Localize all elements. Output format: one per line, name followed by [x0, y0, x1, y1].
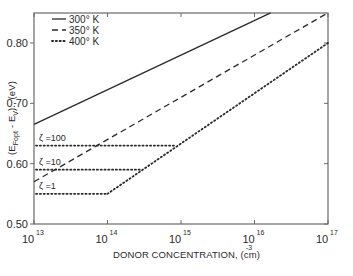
legend-label: 350° K	[69, 25, 99, 36]
svg-text:10: 10	[22, 233, 34, 245]
svg-text:15: 15	[183, 229, 191, 236]
series-line-400k	[108, 43, 329, 194]
chart-container: 0.500.600.700.8010131014101510161017 ζ =…	[0, 0, 353, 276]
x-tick-label: 1016	[242, 229, 264, 245]
y-tick-label: 0.80	[7, 37, 28, 49]
svg-text:-3: -3	[246, 244, 252, 251]
svg-text:10: 10	[169, 233, 181, 245]
svg-text:10: 10	[316, 233, 328, 245]
x-tick-label: 1015	[169, 229, 191, 245]
axes: 0.500.600.700.8010131014101510161017	[7, 13, 338, 245]
y-axis-title: (EFopt - EV) , (eV)	[6, 81, 20, 155]
x-tick-label: 1013	[22, 229, 44, 245]
svg-text:DONOR CONCENTRATION, (cm): DONOR CONCENTRATION, (cm)	[113, 249, 260, 260]
legend: 300° K350° K400° K	[52, 14, 99, 47]
y-tick-label: 0.60	[7, 158, 28, 170]
legend-label: 300° K	[69, 14, 99, 25]
zeta-label: ζ =10	[39, 157, 61, 167]
x-tick-label: 1017	[316, 229, 338, 245]
x-tick-label: 1014	[95, 229, 117, 245]
svg-text:10: 10	[95, 233, 107, 245]
svg-text:17: 17	[330, 229, 338, 236]
svg-text:13: 13	[36, 229, 44, 236]
svg-text:(EFopt - EV) , (eV): (EFopt - EV) , (eV)	[6, 81, 20, 155]
line-chart: 0.500.600.700.8010131014101510161017 ζ =…	[0, 0, 353, 276]
zeta-annotations: ζ =100ζ =10ζ =1	[36, 133, 175, 194]
x-axis-title: DONOR CONCENTRATION, (cm)-3	[113, 244, 260, 260]
legend-label: 400° K	[69, 36, 99, 47]
svg-text:14: 14	[110, 229, 118, 236]
svg-text:16: 16	[257, 229, 265, 236]
zeta-label: ζ =1	[39, 181, 56, 191]
zeta-label: ζ =100	[39, 133, 66, 143]
y-tick-label: 0.50	[7, 218, 28, 230]
